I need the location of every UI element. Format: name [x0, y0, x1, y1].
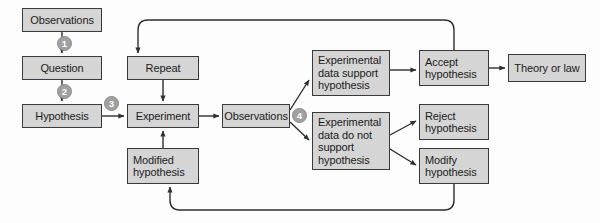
node-repeat[interactable]: Repeat	[127, 56, 199, 80]
node-observations-start[interactable]: Observations	[22, 8, 102, 32]
node-data-do-not-support[interactable]: Experimental data do not support hypothe…	[312, 112, 390, 170]
node-label: Accept hypothesis	[425, 56, 477, 81]
scientific-method-flowchart: Observations Question Hypothesis Repeat …	[0, 0, 600, 223]
edge-observations-to-data-support	[290, 80, 309, 110]
node-modified-hypothesis[interactable]: Modified hypothesis	[127, 148, 199, 184]
node-label: Modified hypothesis	[133, 154, 185, 179]
edge-data-do-not-support-to-reject	[390, 121, 416, 135]
node-modify-hypothesis[interactable]: Modify hypothesis	[419, 148, 489, 184]
step-badge-4: 4	[292, 108, 307, 123]
node-observations-mid[interactable]: Observations	[222, 104, 290, 128]
node-label: Question	[40, 62, 83, 75]
node-theory-or-law[interactable]: Theory or law	[508, 54, 586, 82]
node-label: Repeat	[146, 62, 181, 75]
node-data-support[interactable]: Experimental data support hypothesis	[312, 50, 390, 96]
node-experiment[interactable]: Experiment	[127, 104, 199, 128]
node-label: Observations	[30, 14, 94, 27]
node-label: Reject hypothesis	[425, 110, 477, 135]
step-badge-2: 2	[57, 84, 72, 99]
node-hypothesis[interactable]: Hypothesis	[22, 104, 102, 128]
node-label: Experimental data support hypothesis	[318, 54, 381, 92]
node-label: Experimental data do not support hypothe…	[318, 116, 381, 166]
node-question[interactable]: Question	[22, 56, 102, 80]
node-label: Hypothesis	[35, 110, 88, 123]
edge-accept-to-repeat-loop	[138, 20, 454, 53]
node-accept-hypothesis[interactable]: Accept hypothesis	[419, 50, 489, 86]
node-label: Experiment	[136, 110, 191, 123]
edge-modify-to-modified-hypothesis-loop	[170, 184, 454, 210]
node-label: Modify hypothesis	[425, 154, 477, 179]
node-label: Theory or law	[514, 62, 579, 75]
step-badge-3: 3	[104, 96, 119, 111]
edge-data-do-not-support-to-modify	[390, 149, 416, 165]
step-badge-1: 1	[57, 36, 72, 51]
edge-observations-to-data-do-not-support	[290, 122, 309, 140]
node-label: Observations	[224, 110, 288, 123]
node-reject-hypothesis[interactable]: Reject hypothesis	[419, 104, 489, 140]
